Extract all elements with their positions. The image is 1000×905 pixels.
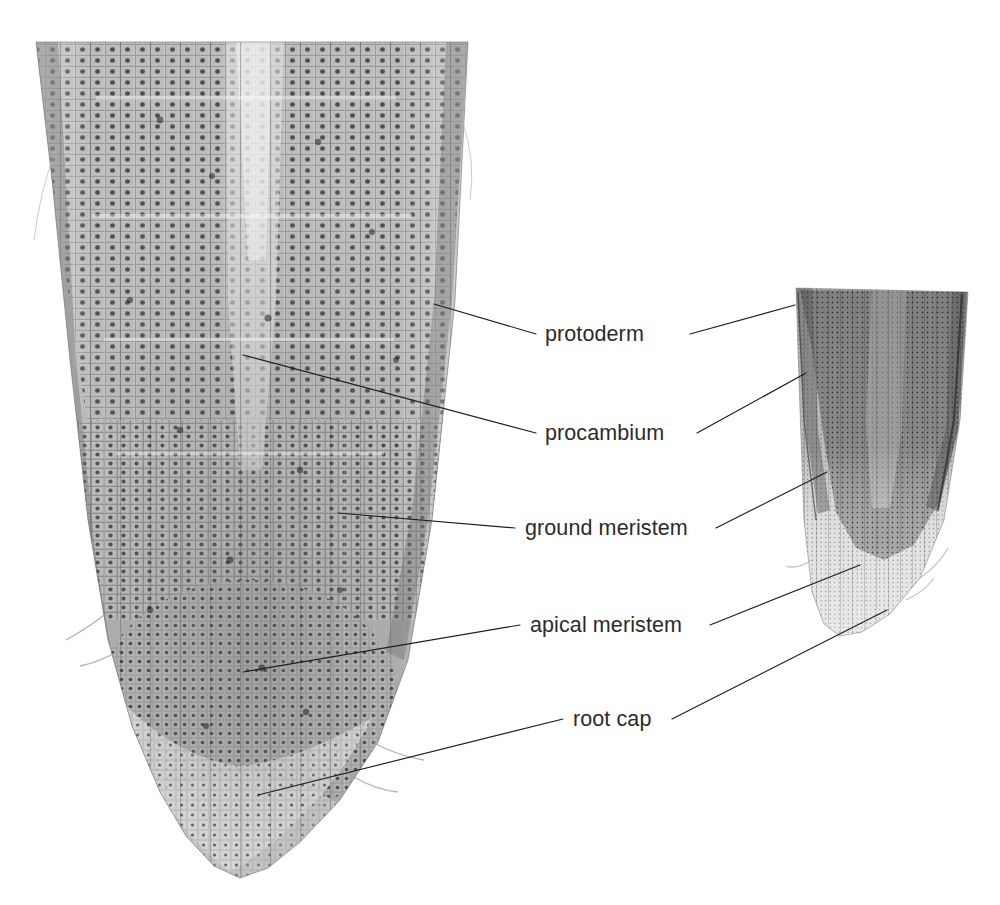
label-procambium: procambium xyxy=(545,421,664,445)
label-ground-meristem: ground meristem xyxy=(525,516,688,540)
label-root-cap: root cap xyxy=(573,707,652,731)
figure-canvas: protoderm procambium ground meristem api… xyxy=(0,0,1000,905)
label-protoderm: protoderm xyxy=(545,322,644,346)
root-tip-figure: protoderm procambium ground meristem api… xyxy=(0,0,1000,905)
label-apical-meristem: apical meristem xyxy=(530,613,682,637)
